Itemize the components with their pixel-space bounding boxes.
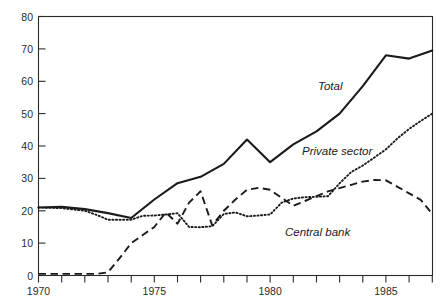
chart-plot: 80 70 60 50 40 30 20 10 0 xyxy=(0,0,447,303)
chart-container: 80 70 60 50 40 30 20 10 0 xyxy=(0,0,447,303)
plot-frame xyxy=(39,17,433,276)
y-axis-labels: 80 70 60 50 40 30 20 10 0 xyxy=(21,11,33,282)
series-line-total xyxy=(39,51,433,219)
x-axis-label-1970: 1970 xyxy=(27,285,51,297)
annotation-central-bank: Central bank xyxy=(285,226,351,238)
x-axis-labels: 1970 1975 1980 1985 xyxy=(27,285,398,297)
y-axis-label-0: 0 xyxy=(27,270,33,282)
y-axis-label-10: 10 xyxy=(21,237,33,249)
y-axis-label-30: 30 xyxy=(21,172,33,184)
x-axis-ticks xyxy=(39,276,433,283)
y-axis-ticks xyxy=(39,17,46,276)
x-axis-label-1980: 1980 xyxy=(258,285,282,297)
y-axis-label-70: 70 xyxy=(21,43,33,55)
x-axis-label-1975: 1975 xyxy=(143,285,167,297)
y-axis-label-60: 60 xyxy=(21,75,33,87)
annotation-private-sector: Private sector xyxy=(302,145,373,157)
y-axis-label-20: 20 xyxy=(21,205,33,217)
x-axis-label-1985: 1985 xyxy=(374,285,398,297)
series-line-private-sector xyxy=(39,114,433,228)
y-axis-label-40: 40 xyxy=(21,140,33,152)
annotation-total: Total xyxy=(318,80,343,92)
series-line-central-bank xyxy=(39,180,433,274)
y-axis-label-50: 50 xyxy=(21,108,33,120)
y-axis-label-80: 80 xyxy=(21,11,33,23)
